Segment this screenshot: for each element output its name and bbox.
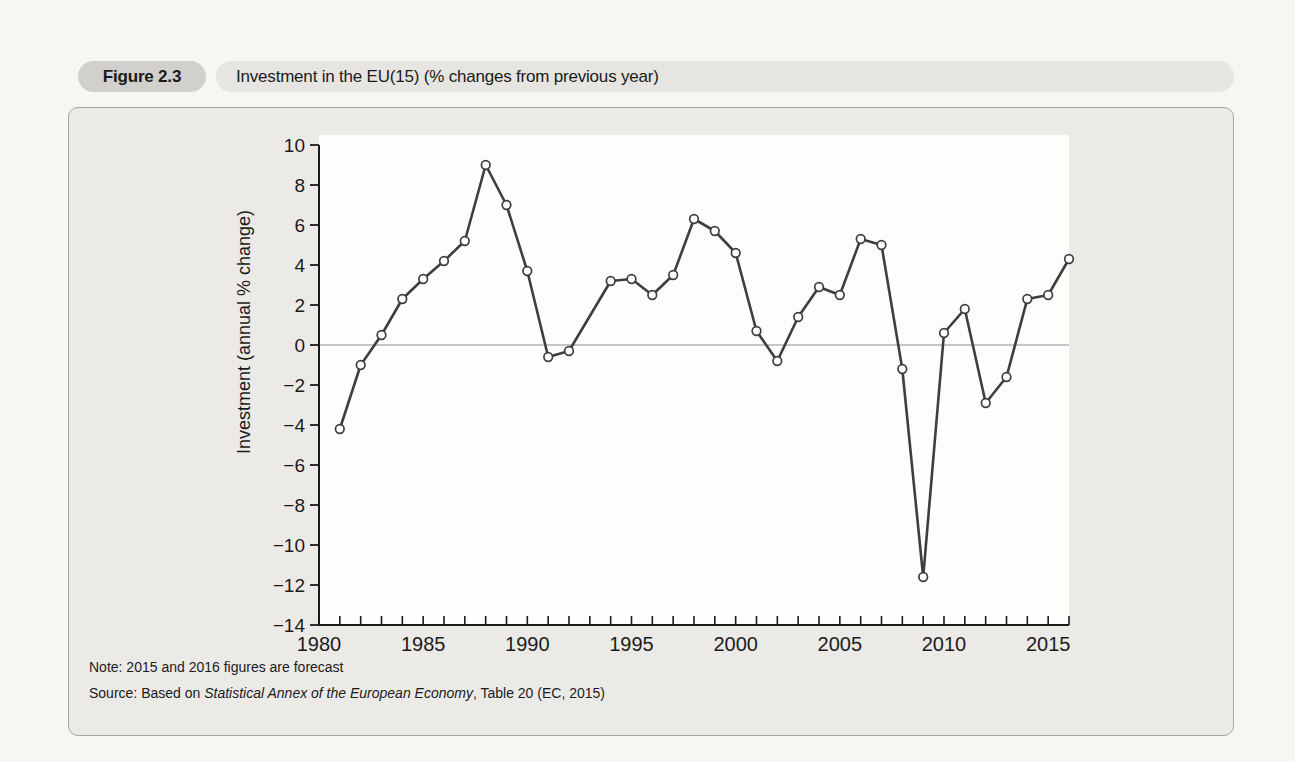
x-axis-tick-label: 1990 [505,633,550,655]
x-axis-tick-label: 1995 [609,633,654,655]
figure-title-band: Investment in the EU(15) (% changes from… [216,61,1234,92]
y-axis-tick-label: 2 [294,295,305,316]
y-axis-tick-label: −8 [283,495,305,516]
data-point-marker [336,425,345,434]
source-text: Source: Based on Statistical Annex of th… [89,680,605,706]
y-axis-tick-label: −4 [283,415,305,436]
x-axis-tick-label: 2005 [818,633,863,655]
data-point-marker [356,361,365,370]
data-point-marker [544,353,553,362]
data-point-marker [690,215,699,224]
y-axis-tick-label: 4 [294,255,305,276]
investment-line-chart: 1086420−2−4−6−8−10−12−141980198519901995… [69,108,1233,735]
data-point-marker [773,357,782,366]
x-axis-tick-label: 1985 [401,633,446,655]
x-axis-tick-label: 1980 [297,633,342,655]
figure-label-pill: Figure 2.3 [78,61,206,92]
data-point-marker [481,161,490,170]
data-point-marker [711,227,720,236]
source-prefix: Source: Based on [89,685,204,701]
y-axis-tick-label: 10 [284,135,305,156]
data-point-marker [648,291,657,300]
x-axis-tick-label: 2010 [922,633,967,655]
y-axis-tick-label: 8 [294,175,305,196]
y-axis-tick-label: −2 [283,375,305,396]
data-point-marker [794,313,803,322]
y-axis-title: Investment (annual % change) [234,210,254,454]
y-axis-tick-label: 6 [294,215,305,236]
data-point-marker [627,275,636,284]
data-point-marker [523,267,532,276]
data-point-marker [419,275,428,284]
data-point-marker [856,235,865,244]
source-title: Statistical Annex of the European Econom… [204,685,473,701]
data-point-marker [1002,373,1011,382]
source-suffix: , Table 20 (EC, 2015) [473,685,605,701]
x-axis-tick-label: 2015 [1026,633,1071,655]
data-point-marker [565,347,574,356]
y-axis-tick-label: −12 [273,575,305,596]
data-point-marker [1065,255,1074,264]
data-point-marker [752,327,761,336]
data-point-marker [898,365,907,374]
data-point-marker [606,277,615,286]
figure-title: Investment in the EU(15) (% changes from… [236,67,659,87]
page-background: { "figure": { "label": "Figure 2.3", "ti… [0,0,1295,762]
figure-header: Figure 2.3 Investment in the EU(15) (% c… [78,61,1234,92]
plot-area [319,135,1069,625]
data-point-marker [1023,295,1032,304]
data-point-marker [815,283,824,292]
data-point-marker [981,399,990,408]
data-point-marker [877,241,886,250]
data-point-marker [919,573,928,582]
data-point-marker [731,249,740,258]
figure-footnotes: Note: 2015 and 2016 figures are forecast… [89,654,605,706]
data-point-marker [398,295,407,304]
data-point-marker [502,201,511,210]
data-point-marker [377,331,386,340]
y-axis-tick-label: −10 [273,535,305,556]
data-point-marker [940,329,949,338]
y-axis-tick-label: −6 [283,455,305,476]
y-axis-tick-label: 0 [294,335,305,356]
data-point-marker [461,237,470,246]
data-point-marker [836,291,845,300]
figure-label: Figure 2.3 [103,67,181,87]
figure-panel: 1086420−2−4−6−8−10−12−141980198519901995… [68,107,1234,736]
data-point-marker [440,257,449,266]
x-axis-tick-label: 2000 [713,633,758,655]
data-point-marker [961,305,970,314]
note-text: Note: 2015 and 2016 figures are forecast [89,654,605,680]
data-point-marker [669,271,678,280]
data-point-marker [1044,291,1053,300]
